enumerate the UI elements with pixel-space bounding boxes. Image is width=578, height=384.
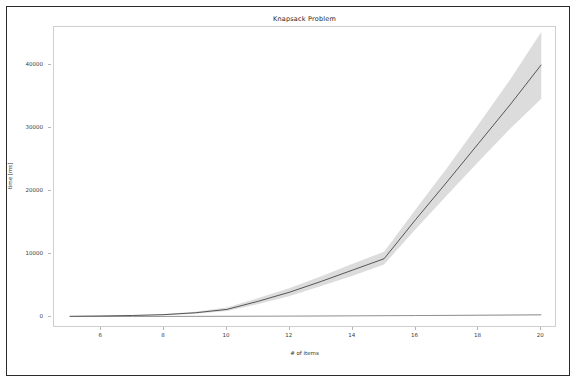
x-tick-label: 10 bbox=[222, 332, 229, 338]
confidence-bands bbox=[70, 32, 542, 317]
x-tick-label: 12 bbox=[285, 332, 292, 338]
y-tick-label: 10000 bbox=[26, 250, 44, 256]
plot-canvas bbox=[54, 27, 557, 328]
y-tick-mark bbox=[48, 316, 51, 317]
chart-figure: Knapsack Problem 010000200003000040000 6… bbox=[0, 0, 578, 384]
x-axis-ticks: 68101214161820 bbox=[53, 327, 556, 343]
y-tick-mark bbox=[48, 253, 51, 254]
y-tick-label: 40000 bbox=[26, 61, 44, 67]
y-tick-label: 30000 bbox=[26, 124, 44, 130]
x-tick-mark bbox=[163, 327, 164, 330]
y-axis-label: time [ms] bbox=[7, 163, 13, 190]
x-tick-mark bbox=[100, 327, 101, 330]
x-tick-label: 8 bbox=[161, 332, 165, 338]
y-tick-label: 20000 bbox=[26, 187, 44, 193]
x-tick-mark bbox=[226, 327, 227, 330]
x-tick-label: 18 bbox=[474, 332, 481, 338]
series-lines bbox=[70, 65, 542, 317]
chart-title: Knapsack Problem bbox=[53, 15, 556, 23]
x-tick-mark bbox=[477, 327, 478, 330]
y-tick-mark bbox=[48, 127, 51, 128]
y-tick-mark bbox=[48, 64, 51, 65]
x-tick-label: 6 bbox=[98, 332, 102, 338]
x-tick-label: 16 bbox=[411, 332, 418, 338]
y-tick-label: 0 bbox=[40, 313, 44, 319]
series-line-0 bbox=[70, 65, 542, 317]
x-tick-mark bbox=[352, 327, 353, 330]
x-axis-label: # of items bbox=[53, 350, 556, 356]
y-tick-mark bbox=[48, 190, 51, 191]
x-tick-label: 14 bbox=[348, 332, 355, 338]
x-tick-mark bbox=[289, 327, 290, 330]
confidence-band-0 bbox=[70, 32, 542, 316]
x-tick-mark bbox=[540, 327, 541, 330]
plot-area bbox=[53, 26, 556, 327]
x-tick-label: 20 bbox=[537, 332, 544, 338]
x-tick-mark bbox=[415, 327, 416, 330]
